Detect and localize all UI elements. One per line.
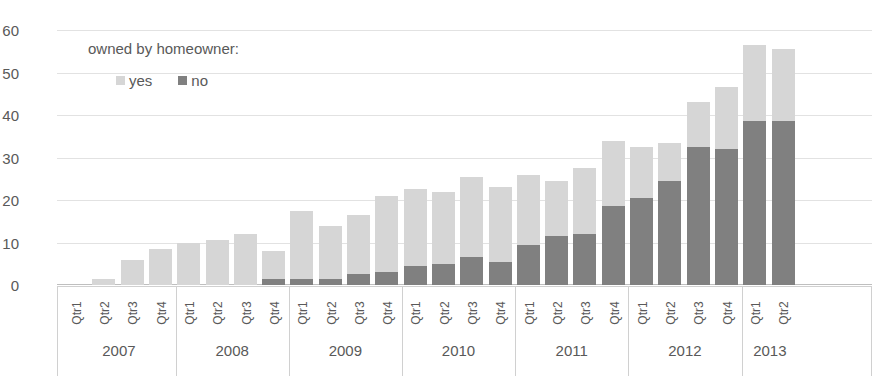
group-separator bbox=[402, 286, 403, 376]
bar bbox=[658, 143, 681, 285]
bar bbox=[743, 45, 766, 285]
category-axis-topline bbox=[58, 286, 871, 287]
quarter-label: Qtr3 bbox=[348, 290, 371, 338]
bar bbox=[602, 141, 625, 286]
quarter-label-text: Qtr4 bbox=[268, 301, 282, 324]
quarter-label: Qtr3 bbox=[235, 290, 258, 338]
quarter-label: Qtr1 bbox=[178, 290, 201, 338]
quarter-label: Qtr2 bbox=[773, 290, 796, 338]
bar bbox=[573, 168, 596, 285]
bar bbox=[319, 226, 342, 286]
bar-segment-no bbox=[432, 264, 455, 285]
quarter-label-text: Qtr1 bbox=[409, 301, 423, 324]
y-tick-60: 60 bbox=[0, 23, 19, 38]
bar bbox=[772, 49, 795, 285]
group-separator bbox=[289, 286, 290, 376]
quarter-label-text: Qtr1 bbox=[296, 301, 310, 324]
bar-segment-no bbox=[262, 279, 285, 285]
quarter-label: Qtr1 bbox=[631, 290, 654, 338]
quarter-label: Qtr2 bbox=[320, 290, 343, 338]
bar-segment-yes bbox=[432, 192, 455, 264]
quarter-label-text: Qtr4 bbox=[154, 301, 168, 324]
bar-segment-no bbox=[290, 279, 313, 285]
bar-segment-no bbox=[319, 279, 342, 285]
quarter-label-text: Qtr4 bbox=[607, 301, 621, 324]
category-axis: Qtr1Qtr2Qtr3Qtr4Qtr1Qtr2Qtr3Qtr4Qtr1Qtr2… bbox=[57, 286, 872, 376]
bar bbox=[545, 181, 568, 285]
quarter-label-text: Qtr3 bbox=[579, 301, 593, 324]
quarter-label: Qtr4 bbox=[150, 290, 173, 338]
quarter-label: Qtr2 bbox=[546, 290, 569, 338]
quarter-label-text: Qtr1 bbox=[70, 301, 84, 324]
bar bbox=[715, 87, 738, 285]
bar-segment-yes bbox=[602, 141, 625, 207]
year-label-2008: 2008 bbox=[176, 342, 289, 359]
quarter-label: Qtr2 bbox=[659, 290, 682, 338]
legend-label-yes: yes bbox=[129, 72, 152, 89]
group-separator bbox=[628, 286, 629, 376]
bar bbox=[489, 187, 512, 285]
y-tick-30: 30 bbox=[0, 151, 19, 166]
bar bbox=[121, 260, 144, 286]
bar-segment-yes bbox=[92, 279, 115, 285]
legend-title: owned by homeowner: bbox=[88, 40, 239, 58]
bar-segment-no bbox=[630, 198, 653, 285]
quarter-label: Qtr4 bbox=[263, 290, 286, 338]
quarter-label: Qtr3 bbox=[461, 290, 484, 338]
quarter-label: Qtr1 bbox=[65, 290, 88, 338]
legend-label-no: no bbox=[191, 72, 208, 89]
quarter-label-text: Qtr3 bbox=[692, 301, 706, 324]
bar-segment-no bbox=[602, 206, 625, 285]
y-tick-0: 0 bbox=[0, 278, 19, 293]
bar-segment-yes bbox=[715, 87, 738, 149]
bar-segment-no bbox=[517, 245, 540, 285]
bar-segment-no bbox=[658, 181, 681, 285]
bar-segment-yes bbox=[177, 243, 200, 286]
bar bbox=[177, 243, 200, 286]
legend-item-yes: yes bbox=[116, 72, 152, 89]
quarter-label: Qtr4 bbox=[603, 290, 626, 338]
legend-swatch-yes-icon bbox=[116, 76, 125, 85]
bar bbox=[517, 175, 540, 286]
legend-swatch-no-icon bbox=[178, 76, 187, 85]
bar-segment-no bbox=[489, 262, 512, 285]
quarter-label-text: Qtr3 bbox=[126, 301, 140, 324]
bar-segment-yes bbox=[687, 102, 710, 147]
quarter-label: Qtr2 bbox=[93, 290, 116, 338]
bar-segment-yes bbox=[404, 189, 427, 266]
quarter-label-text: Qtr1 bbox=[522, 301, 536, 324]
bar bbox=[404, 189, 427, 285]
quarter-label-text: Qtr2 bbox=[437, 301, 451, 324]
quarter-label: Qtr3 bbox=[574, 290, 597, 338]
bar bbox=[347, 215, 370, 285]
quarter-label: Qtr4 bbox=[376, 290, 399, 338]
quarter-label-text: Qtr1 bbox=[636, 301, 650, 324]
year-label-2011: 2011 bbox=[515, 342, 628, 359]
y-tick-10: 10 bbox=[0, 236, 19, 251]
bar-segment-yes bbox=[319, 226, 342, 279]
quarter-label: Qtr1 bbox=[518, 290, 541, 338]
bar-segment-yes bbox=[573, 168, 596, 234]
quarter-label-text: Qtr3 bbox=[466, 301, 480, 324]
quarter-label: Qtr4 bbox=[716, 290, 739, 338]
group-separator bbox=[742, 286, 743, 376]
bar bbox=[92, 279, 115, 285]
bar bbox=[262, 251, 285, 285]
bar bbox=[290, 211, 313, 285]
bar-segment-no bbox=[772, 121, 795, 285]
group-separator bbox=[176, 286, 177, 376]
quarter-label-text: Qtr1 bbox=[183, 301, 197, 324]
bar-segment-no bbox=[573, 234, 596, 285]
bar-segment-yes bbox=[290, 211, 313, 279]
quarter-label: Qtr3 bbox=[688, 290, 711, 338]
bar bbox=[460, 177, 483, 285]
year-label-2009: 2009 bbox=[289, 342, 402, 359]
quarter-label-text: Qtr2 bbox=[211, 301, 225, 324]
bar-segment-no bbox=[545, 236, 568, 285]
bar-segment-yes bbox=[149, 249, 172, 285]
group-separator bbox=[515, 286, 516, 376]
bar-segment-no bbox=[743, 121, 766, 285]
gridline-60 bbox=[57, 30, 872, 31]
bar-segment-yes bbox=[772, 49, 795, 121]
legend-entries: yes no bbox=[116, 72, 239, 89]
